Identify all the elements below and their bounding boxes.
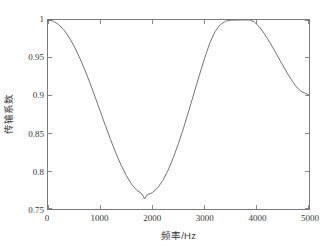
x-axis-label: 频率/Hz [47, 228, 310, 242]
x-axis-tick-label: 1000 [91, 213, 109, 223]
x-axis-tick-label: 2000 [143, 213, 161, 223]
y-axis-tick-label: 0.95 [28, 53, 44, 62]
x-axis-tick-label: 3000 [196, 213, 214, 223]
y-axis-tick-label: 0.8 [33, 167, 44, 176]
y-axis-tick-label: 1 [40, 15, 45, 24]
x-axis-tick-label: 0 [45, 213, 50, 223]
data-line-transmission-coefficient [48, 20, 309, 199]
y-axis-tick-label: 0.85 [28, 129, 44, 138]
y-axis-label: 传输系数 [1, 94, 15, 135]
chart-page: 0.750.80.850.90.951 01000200030004000500… [0, 0, 329, 250]
plot-area [47, 19, 310, 210]
transmission-coefficient-curve [48, 20, 309, 209]
y-axis-tick-label: 0.75 [28, 206, 44, 215]
y-axis-tick-label: 0.9 [33, 91, 44, 100]
x-axis-tick-labels: 010002000300040005000 [47, 213, 310, 227]
x-axis-tick-label: 5000 [301, 213, 319, 223]
x-axis-tick-label: 4000 [248, 213, 266, 223]
